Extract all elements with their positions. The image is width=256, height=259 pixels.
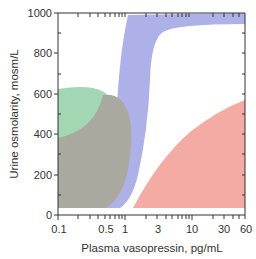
y-tick-label: 400 xyxy=(34,128,52,140)
x-tick-labels: 0.1 0.5 1 3 10 30 60 xyxy=(51,223,252,235)
x-tick-label: 60 xyxy=(240,223,252,235)
plot-area xyxy=(58,13,245,208)
x-tick-label: 1 xyxy=(122,223,128,235)
y-tick-label: 600 xyxy=(34,88,52,100)
x-tick-label: 0.1 xyxy=(51,223,66,235)
y-tick-label: 200 xyxy=(34,169,52,181)
x-tick-label: 3 xyxy=(155,223,161,235)
x-tick-label: 30 xyxy=(218,223,230,235)
y-axis-title: Urine osmolarity, mosm/L xyxy=(8,49,20,179)
y-tick-label: 0 xyxy=(46,209,52,221)
x-tick-label: 0.5 xyxy=(98,223,113,235)
chart: 0 200 400 600 800 1000 0.1 0.5 1 3 10 30… xyxy=(0,0,256,259)
y-tick-label: 1000 xyxy=(28,7,52,19)
y-tick-label: 800 xyxy=(34,47,52,59)
red-region xyxy=(133,100,245,208)
x-axis-title: Plasma vasopressin, pg/mL xyxy=(81,242,223,254)
y-tick-labels: 0 200 400 600 800 1000 xyxy=(28,7,52,221)
x-tick-label: 10 xyxy=(186,223,198,235)
